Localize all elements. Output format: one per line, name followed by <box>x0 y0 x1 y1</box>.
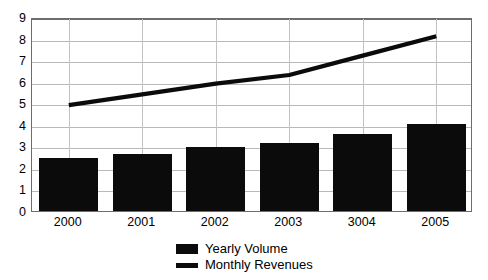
y-axis-tick-label: 2 <box>4 163 26 176</box>
filled-square-swatch-icon <box>176 244 198 254</box>
x-axis-tick-label: 2001 <box>105 216 179 229</box>
y-axis-tick-label: 0 <box>4 206 26 219</box>
y-axis-tick-label: 7 <box>4 55 26 68</box>
x-axis-tick-label: 2000 <box>31 216 105 229</box>
line-swatch-icon <box>176 263 198 268</box>
y-axis-tick-label: 6 <box>4 77 26 90</box>
legend-item-label: Yearly Volume <box>205 241 288 257</box>
legend-item-monthly-revenues: Monthly Revenues <box>176 257 313 273</box>
chart-container: 0123456789 200020012002200330042005 Year… <box>0 0 488 280</box>
y-axis-tick-label: 8 <box>4 34 26 47</box>
y-axis-tick-label: 5 <box>4 98 26 111</box>
legend-item-label: Monthly Revenues <box>205 257 313 273</box>
x-axis-tick-label: 2005 <box>399 216 473 229</box>
y-axis-tick-label: 9 <box>4 12 26 25</box>
x-axis-tick-label: 2003 <box>252 216 326 229</box>
y-axis-tick-label: 3 <box>4 141 26 154</box>
plot-area <box>31 18 472 212</box>
x-axis-tick-label: 2002 <box>178 216 252 229</box>
x-axis-tick-label: 3004 <box>325 216 399 229</box>
chart-legend: Yearly Volume Monthly Revenues <box>176 241 313 273</box>
y-axis-tick-label: 1 <box>4 184 26 197</box>
monthly-revenues-polyline <box>69 36 437 105</box>
line-series-monthly-revenues <box>32 19 473 213</box>
y-axis-tick-label: 4 <box>4 120 26 133</box>
legend-item-yearly-volume: Yearly Volume <box>176 241 313 257</box>
